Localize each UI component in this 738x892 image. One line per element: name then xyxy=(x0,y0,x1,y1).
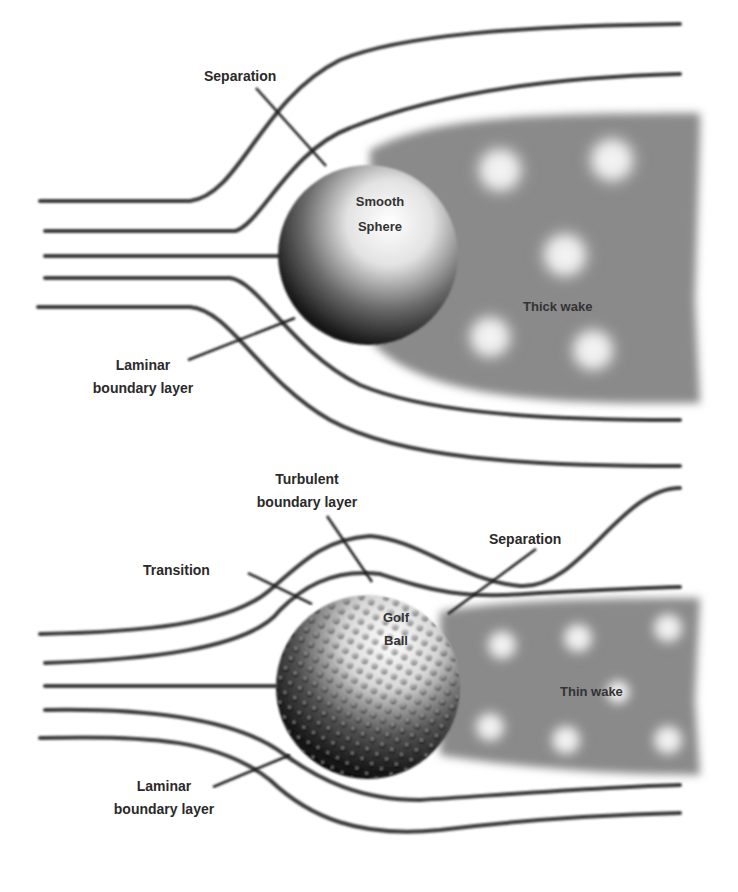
separation-label: Separation xyxy=(204,68,276,84)
sphere-label-line1: Smooth xyxy=(356,194,404,209)
flow-diagram: Separation Smooth Sphere Thick wake Lami… xyxy=(0,0,738,892)
laminar-label-line2: boundary layer xyxy=(114,801,215,817)
bottom-panel-golf-ball: Turbulent boundary layer Transition Sepa… xyxy=(40,471,700,832)
turbulent-label-line1: Turbulent xyxy=(275,471,339,487)
golf-label-line2: Ball xyxy=(384,633,408,648)
transition-label: Transition xyxy=(143,562,210,578)
golf-label-line1: Golf xyxy=(383,610,410,625)
laminar-label-line1: Laminar xyxy=(116,357,171,373)
sphere-label-line2: Sphere xyxy=(358,219,402,234)
laminar-leader-line xyxy=(213,755,290,787)
laminar-label-line2: boundary layer xyxy=(93,380,194,396)
turbulent-label-line2: boundary layer xyxy=(257,494,358,510)
thin-wake-label: Thin wake xyxy=(560,684,623,699)
laminar-leader-line xyxy=(188,318,295,360)
thick-wake-label: Thick wake xyxy=(523,299,592,314)
golf-ball-icon xyxy=(276,595,460,779)
smooth-sphere-icon xyxy=(278,165,458,345)
top-panel-smooth-sphere: Separation Smooth Sphere Thick wake Lami… xyxy=(38,24,700,466)
laminar-label-line1: Laminar xyxy=(137,778,192,794)
separation-label: Separation xyxy=(489,531,561,547)
